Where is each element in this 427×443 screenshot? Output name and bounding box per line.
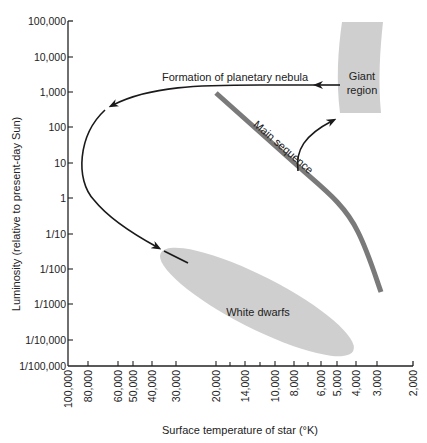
x-tick-label: 14,000 [239,370,251,402]
y-tick-label: 100,000 [28,15,66,27]
x-tick-label: 20,000 [210,370,222,402]
x-ticks [88,361,377,366]
y-tick-label: 1/10 [46,228,67,240]
x-tick-label: 6,000 [315,370,327,396]
nebula-label: Formation of planetary nebula [162,71,309,83]
y-tick-label: 10 [54,157,66,169]
x-tick-labels: 100,000 80,000 60,000 50,000 40,000 30,0… [62,370,419,408]
y-tick-label: 1/1000 [34,298,66,310]
y-axis-title: Luminosity (relative to present-day Sun) [10,117,22,311]
x-tick-label: 30,000 [170,370,182,402]
y-tick-label: 1,000 [40,86,66,98]
white-dwarfs-label: White dwarfs [226,306,290,318]
y-tick-label: 1/100 [40,263,66,275]
x-tick-label: 60,000 [112,370,124,402]
main-sequence-label: Main sequence [252,118,316,176]
hr-diagram: 100,000 10,000 1,000 100 10 1 1/10 1/100… [0,0,427,443]
y-tick-label: 1/10,000 [25,334,66,346]
y-ticks [68,57,73,340]
y-tick-labels: 100,000 10,000 1,000 100 10 1 1/10 1/100… [19,15,66,372]
giant-region [338,22,383,113]
y-tick-label: 1/100,000 [19,360,66,372]
x-tick-label: 3,000 [371,370,383,396]
x-axis-title: Surface temperature of star (°K) [162,424,318,436]
x-tick-label: 5,000 [331,370,343,396]
x-tick-label: 8,000 [288,370,300,396]
giant-region-label-line2: region [347,84,378,96]
white-dwarfs-region [149,230,365,374]
x-tick-label: 4,000 [350,370,362,396]
main-sequence-band [216,93,381,292]
x-tick-label: 80,000 [82,370,94,402]
x-tick-label: 2,000 [407,370,419,396]
track-nebula-to-dwarf [82,110,157,247]
x-tick-label: 100,000 [62,370,74,408]
y-tick-label: 100 [48,121,66,133]
giant-region-label-line1: Giant [349,70,375,82]
x-tick-label: 10,000 [269,370,281,402]
y-tick-label: 10,000 [34,51,66,63]
x-tick-label: 40,000 [146,370,158,402]
y-tick-label: 1 [60,192,66,204]
x-tick-label: 50,000 [127,370,139,402]
